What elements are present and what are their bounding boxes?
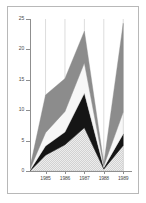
y-tick-mark [26, 80, 30, 81]
y-tick-label: 10 [4, 107, 24, 113]
area-bands [30, 23, 123, 171]
y-tick-label-text: 10 [6, 107, 24, 112]
x-tick-mark [84, 171, 85, 174]
y-tick-label: 15 [4, 77, 24, 83]
y-tick-label: 25 [4, 16, 24, 22]
y-tick-mark [26, 141, 30, 142]
y-tick-label: 0 [4, 168, 24, 174]
y-tick-label-text: 0 [6, 168, 24, 173]
x-tick-label-text: 1989 [112, 175, 134, 181]
y-tick-label-text: 20 [6, 46, 24, 51]
x-tick-mark [104, 171, 105, 174]
y-tick-label: 20 [4, 46, 24, 52]
stacked-area-plot [30, 19, 131, 171]
x-tick-mark [46, 171, 47, 174]
y-tick-label: 5 [4, 138, 24, 144]
y-tick-label-text: 25 [6, 16, 24, 21]
plot-area [30, 19, 131, 171]
y-tick-label-text: 5 [6, 138, 24, 143]
y-tick-mark [26, 171, 30, 172]
y-tick-label-text: 15 [6, 77, 24, 82]
x-tick-mark [123, 171, 124, 174]
y-tick-mark [26, 19, 30, 20]
y-tick-mark [26, 49, 30, 50]
chart-figure: 0510152025 19851986198719881989 [0, 0, 146, 203]
x-tick-mark [65, 171, 66, 174]
y-tick-mark [26, 110, 30, 111]
